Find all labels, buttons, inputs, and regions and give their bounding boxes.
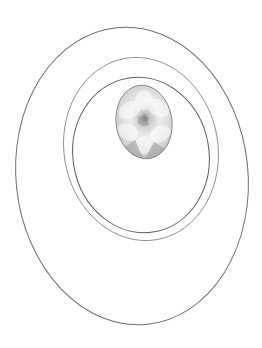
flower-photo: [110, 80, 180, 165]
outer-ring: [1, 16, 262, 337]
ellipse-figure: [0, 0, 262, 348]
